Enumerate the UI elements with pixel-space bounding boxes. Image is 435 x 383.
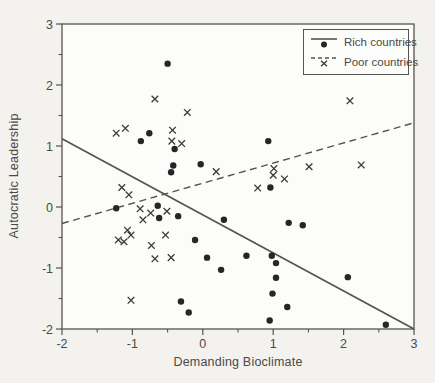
x-tick-label: 0 (199, 337, 206, 351)
x-tick-label: 1 (270, 337, 277, 351)
data-point-rich (345, 274, 351, 280)
legend-item-poor-countries: Poor countries (310, 53, 408, 71)
data-point-rich (164, 60, 170, 66)
y-tick-label: 1 (46, 140, 53, 154)
x-axis-title: Demanding Bioclimate (173, 355, 302, 369)
data-point-rich (171, 146, 177, 152)
data-point-rich (170, 162, 176, 168)
x-tick-label: 2 (340, 337, 347, 351)
data-point-rich (266, 317, 272, 323)
legend: Rich countries Poor countries (303, 29, 409, 75)
x-tick-label: -2 (56, 337, 67, 351)
y-tick-label: 3 (46, 18, 53, 32)
data-point-rich (267, 184, 273, 190)
data-point-rich (178, 298, 184, 304)
y-tick-label: 0 (46, 201, 53, 215)
solid-line-dot-icon (310, 35, 338, 50)
data-point-rich (138, 138, 144, 144)
data-point-rich (168, 169, 174, 175)
data-point-rich (204, 254, 210, 260)
data-point-rich (269, 290, 275, 296)
scatter-figure: -2-101233210-1-2 Autocratic Leadership D… (0, 0, 435, 383)
x-tick-label: 3 (411, 337, 418, 351)
data-point-rich (175, 213, 181, 219)
legend-item-rich-countries: Rich countries (310, 33, 408, 51)
data-point-rich (300, 222, 306, 228)
data-point-rich (273, 260, 279, 266)
data-point-rich (155, 203, 161, 209)
data-point-rich (269, 253, 275, 259)
data-point-rich (265, 138, 271, 144)
data-point-rich (383, 322, 389, 328)
y-tick-label: -1 (42, 262, 53, 276)
data-point-rich (197, 161, 203, 167)
data-point-rich (273, 275, 279, 281)
y-tick-label: 2 (46, 79, 53, 93)
x-tick-label: -1 (127, 337, 138, 351)
data-point-rich (146, 130, 152, 136)
data-point-rich (218, 267, 224, 273)
dashed-line-x-icon (310, 54, 338, 69)
data-point-rich (113, 205, 119, 211)
data-point-rich (284, 304, 290, 310)
y-axis-title: Autocratic Leadership (7, 113, 21, 238)
data-point-rich (186, 309, 192, 315)
y-tick-label: -2 (42, 323, 53, 337)
data-point-rich (285, 220, 291, 226)
data-point-rich (156, 215, 162, 221)
legend-label-rich-countries: Rich countries (344, 36, 417, 48)
data-point-rich (192, 237, 198, 243)
legend-label-poor-countries: Poor countries (344, 56, 418, 68)
data-point-rich (221, 217, 227, 223)
data-point-rich (243, 253, 249, 259)
